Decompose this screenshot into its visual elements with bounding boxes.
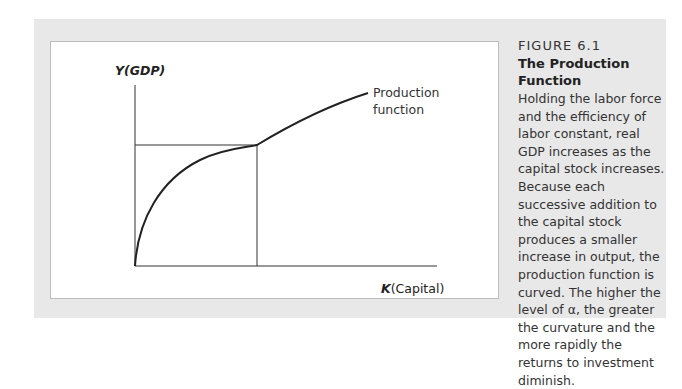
figure-title: The Production Function	[518, 55, 668, 89]
x-axis-variable: K	[381, 281, 391, 296]
production-function-curve	[135, 93, 368, 266]
curve-label: Production function	[373, 84, 453, 118]
x-axis-label-text: (Capital)	[391, 281, 445, 296]
y-axis-label: Y(GDP)	[115, 63, 165, 78]
figure-number: FIGURE 6.1	[518, 37, 668, 55]
figure-caption: FIGURE 6.1 The Production Function Holdi…	[518, 37, 668, 389]
x-axis-label: K(Capital)	[381, 281, 444, 296]
figure-description: Holding the labor force and the efficien…	[518, 90, 668, 389]
